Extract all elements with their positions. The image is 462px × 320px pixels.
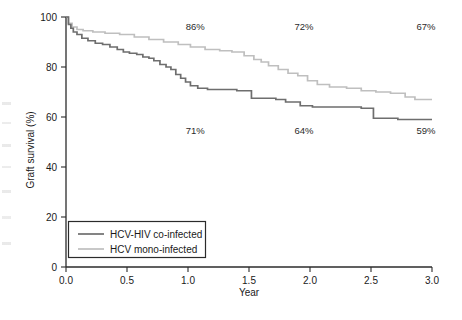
y-tick-label: 100 [40,12,57,23]
y-axis-tick-labels: 020406080100 [40,12,57,273]
y-tick-label: 80 [46,62,58,73]
survival-chart-figure: 020406080100 0.00.51.01.52.02.53.0 Graft… [0,0,462,320]
y-axis-ticks [61,17,66,267]
survival-curve-hcv-hiv-co-infected [66,17,432,120]
annotation-72pct: 72% [294,21,314,32]
x-axis-title: Year [239,287,260,298]
annotation-71pct: 71% [186,125,206,136]
annotation-86pct: 86% [186,21,206,32]
legend-label-1: HCV mono-infected [110,244,197,255]
survival-curves-group [66,17,432,120]
annotation-64pct: 64% [294,125,314,136]
survival-curve-hcv-mono-infected [66,17,432,100]
y-tick-label: 20 [46,212,58,223]
x-tick-label: 0.5 [120,275,134,286]
x-tick-label: 0.0 [59,275,73,286]
y-tick-label: 60 [46,112,58,123]
annotation-67pct: 67% [416,21,436,32]
y-axis-title: Graft survival (%) [25,111,36,188]
x-tick-label: 1.0 [181,275,195,286]
annotation-59pct: 59% [416,125,436,136]
y-tick-label: 0 [51,262,57,273]
x-tick-label: 1.5 [242,275,256,286]
x-axis-tick-labels: 0.00.51.01.52.02.53.0 [59,275,439,286]
x-tick-label: 2.5 [364,275,378,286]
x-tick-label: 3.0 [425,275,439,286]
legend-label-0: HCV-HIV co-infected [110,229,202,240]
legend: HCV-HIV co-infectedHCV mono-infected [69,222,206,258]
x-axis-ticks [66,267,432,272]
x-tick-label: 2.0 [303,275,317,286]
y-tick-label: 40 [46,162,58,173]
graft-survival-plot: 020406080100 0.00.51.01.52.02.53.0 Graft… [0,0,462,320]
